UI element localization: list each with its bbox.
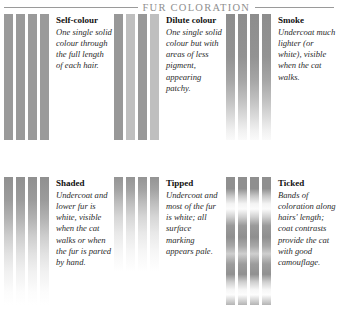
- panel-dilute-colour: Dilute colour One single solid colour bu…: [114, 14, 222, 140]
- hair-bar: [238, 14, 247, 140]
- panel-heading: Shaded: [56, 178, 112, 189]
- panel-text-smoke: Smoke Undercoat much lighter (or white),…: [278, 14, 336, 83]
- hair-bar: [150, 14, 159, 140]
- hair-diagram-shaded: [4, 177, 49, 305]
- hair-bar: [126, 177, 135, 305]
- panel-heading: Tipped: [166, 178, 222, 189]
- panel-tipped: Tipped Undercoat and most of the fur is …: [114, 177, 222, 305]
- panel-smoke: Smoke Undercoat much lighter (or white),…: [226, 14, 336, 140]
- panel-description: One single solid colour through the full…: [56, 27, 112, 72]
- fur-coloration-grid: Self-colour One single solid colour thro…: [0, 14, 338, 311]
- panel-shaded: Shaded Undercoat and lower fur is white,…: [4, 177, 112, 305]
- hair-diagram-smoke: [226, 14, 271, 140]
- hair-diagram-tipped: [114, 177, 159, 305]
- hair-bar: [16, 14, 25, 140]
- panel-self-colour: Self-colour One single solid colour thro…: [4, 14, 112, 140]
- panel-description: Undercoat much lighter (or white), visib…: [278, 27, 336, 83]
- hair-bar: [150, 177, 159, 305]
- panel-text-dilute-colour: Dilute colour One single solid colour bu…: [166, 14, 222, 94]
- hair-bar: [114, 177, 123, 305]
- panel-description: Undercoat and lower fur is white, visibl…: [56, 190, 112, 268]
- hair-bar: [226, 177, 235, 305]
- hair-bar: [40, 14, 49, 140]
- hair-bar: [4, 14, 13, 140]
- hair-bar: [138, 177, 147, 305]
- page-title: FUR COLORATION: [143, 2, 251, 13]
- hair-bar: [16, 177, 25, 305]
- panel-text-ticked: Ticked Bands of coloration along hairs' …: [278, 177, 336, 268]
- figure-header: FUR COLORATION: [0, 0, 338, 14]
- hair-diagram-dilute-colour: [114, 14, 159, 140]
- hair-bar: [262, 177, 271, 305]
- hair-diagram-ticked: [226, 177, 271, 305]
- hair-bar: [250, 177, 259, 305]
- hair-bar: [40, 177, 49, 305]
- panel-text-self-colour: Self-colour One single solid colour thro…: [56, 14, 112, 72]
- hair-bar: [226, 14, 235, 140]
- hair-bar: [4, 177, 13, 305]
- hair-bar: [28, 14, 37, 140]
- panel-description: Undercoat and most of the fur is white; …: [166, 190, 222, 257]
- panel-text-shaded: Shaded Undercoat and lower fur is white,…: [56, 177, 112, 268]
- hair-diagram-self-colour: [4, 14, 49, 140]
- hair-bar: [238, 177, 247, 305]
- panel-heading: Dilute colour: [166, 15, 222, 26]
- hair-bar: [250, 14, 259, 140]
- hair-bar: [262, 14, 271, 140]
- panel-description: One single solid colour but with areas o…: [166, 27, 222, 94]
- hair-bar: [138, 14, 147, 140]
- panel-heading: Smoke: [278, 15, 336, 26]
- panel-heading: Self-colour: [56, 15, 112, 26]
- hair-bar: [126, 14, 135, 140]
- header-rule-left: [4, 7, 138, 8]
- panel-ticked: Ticked Bands of coloration along hairs' …: [226, 177, 336, 305]
- hair-bar: [28, 177, 37, 305]
- panel-description: Bands of coloration along hairs' length;…: [278, 190, 336, 268]
- panel-heading: Ticked: [278, 178, 336, 189]
- panel-text-tipped: Tipped Undercoat and most of the fur is …: [166, 177, 222, 257]
- hair-bar: [114, 14, 123, 140]
- header-rule-right: [255, 7, 334, 8]
